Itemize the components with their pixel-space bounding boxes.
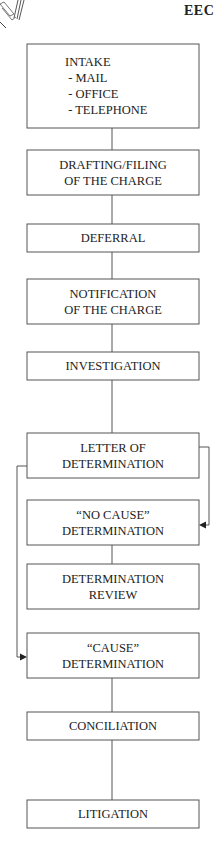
box-text-line: REVIEW — [27, 587, 199, 603]
box-text-line: CONCILIATION — [27, 718, 199, 734]
box-label-review: DETERMINATIONREVIEW — [27, 564, 199, 609]
box-label-deferral: DEFERRAL — [27, 224, 199, 252]
box-text-line: LITIGATION — [27, 806, 199, 822]
box-label-intake: INTAKE - MAIL - OFFICE - TELEPHONE — [65, 44, 199, 128]
box-text-line: OF THE CHARGE — [27, 302, 199, 318]
connector-letter-to-cause — [17, 466, 27, 657]
box-text-line: DETERMINATION — [27, 523, 199, 539]
box-text-line: DETERMINATION — [27, 456, 199, 472]
box-text-line: “CAUSE” — [27, 640, 199, 656]
box-text-line: DETERMINATION — [27, 571, 199, 587]
box-text-line: - TELEPHONE — [65, 102, 199, 118]
box-text-line: LETTER OF — [27, 440, 199, 456]
box-label-cause: “CAUSE”DETERMINATION — [27, 633, 199, 678]
box-text-line: INVESTIGATION — [27, 358, 199, 374]
box-text-line: OF THE CHARGE — [27, 173, 199, 189]
box-label-litigation: LITIGATION — [27, 800, 199, 828]
box-label-conciliation: CONCILIATION — [27, 712, 199, 740]
arrowhead-icon — [199, 522, 206, 529]
box-text-line: DRAFTING/FILING — [27, 157, 199, 173]
box-label-no-cause: “NO CAUSE”DETERMINATION — [27, 500, 199, 545]
box-label-investigation: INVESTIGATION — [27, 352, 199, 380]
box-text-line: - OFFICE — [65, 86, 199, 102]
box-text-line: DETERMINATION — [27, 656, 199, 672]
box-text-line: NOTIFICATION — [27, 286, 199, 302]
box-text-line: DEFERRAL — [27, 230, 199, 246]
box-label-letter: LETTER OFDETERMINATION — [27, 433, 199, 478]
arrowhead-icon — [20, 654, 27, 661]
box-label-notification: NOTIFICATIONOF THE CHARGE — [27, 279, 199, 324]
box-text-line: - MAIL — [65, 70, 199, 86]
box-label-drafting: DRAFTING/FILINGOF THE CHARGE — [27, 150, 199, 195]
connector-letter-to-no-cause — [199, 447, 209, 525]
box-text-line: “NO CAUSE” — [27, 507, 199, 523]
box-text-line: INTAKE — [65, 54, 199, 70]
